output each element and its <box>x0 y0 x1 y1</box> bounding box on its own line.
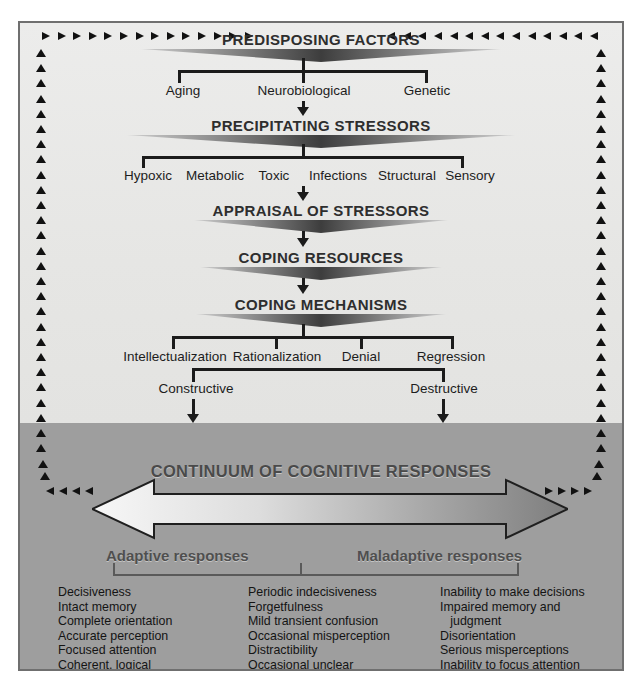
triangle-marker <box>596 155 606 163</box>
column-intermediate: Periodic indecisivenessForgetfulnessMild… <box>248 585 390 671</box>
triangle-marker <box>596 338 606 346</box>
column-item: Occasional misperception <box>248 629 390 644</box>
triangle-marker <box>596 444 606 452</box>
down-arrow-icon <box>297 107 309 116</box>
mechanism-intellectualization: Intellectualization <box>123 349 227 364</box>
triangle-marker <box>36 171 46 179</box>
column-item: Complete orientation <box>58 614 172 629</box>
connector-tick <box>172 336 175 349</box>
column-item: Mild transient confusion <box>248 614 390 629</box>
column-item: Intact memory <box>58 600 172 615</box>
triangle-marker <box>36 429 46 437</box>
connector-tick <box>192 368 195 382</box>
mechanism-rationalization: Rationalization <box>233 349 322 364</box>
triangle-marker <box>596 95 606 103</box>
triangle-marker <box>36 79 46 87</box>
label-maladaptive-responses: Maladaptive responses <box>357 547 522 564</box>
triangle-marker <box>596 64 606 72</box>
stressor-metabolic: Metabolic <box>186 168 244 183</box>
connector-tick <box>425 70 428 83</box>
connector-tick <box>461 156 464 168</box>
column-item: Disorientation <box>440 629 585 644</box>
triangle-marker <box>584 487 592 495</box>
triangle-marker <box>596 429 606 437</box>
diagram-panel: PREDISPOSING FACTORS Aging Neurobiologic… <box>18 21 624 671</box>
label-adaptive-responses: Adaptive responses <box>106 547 249 564</box>
mechanism-denial: Denial <box>342 349 380 364</box>
stage-title-coping-resources: COPING RESOURCES <box>20 249 622 266</box>
triangle-marker <box>596 186 606 194</box>
triangle-marker <box>596 79 606 87</box>
stressor-hypoxic: Hypoxic <box>124 168 172 183</box>
triangle-marker <box>36 95 46 103</box>
connector-tick <box>451 336 454 349</box>
triangle-marker <box>36 155 46 163</box>
column-item: Accurate perception <box>58 629 172 644</box>
connector-tick <box>275 336 278 349</box>
response-bracket <box>113 574 519 576</box>
column-item: Coherent, logical <box>58 658 172 671</box>
banner-coping-mechanisms <box>20 314 622 328</box>
stressor-toxic: Toxic <box>259 168 290 183</box>
column-item: judgment <box>440 614 585 629</box>
banner-predisposing <box>20 49 622 63</box>
connector-tick <box>178 70 181 83</box>
triangle-marker <box>46 487 54 495</box>
down-arrow-icon <box>297 238 309 247</box>
connector-h <box>192 368 445 371</box>
stage-title-precipitating: PRECIPITATING STRESSORS <box>20 117 622 134</box>
triangle-marker <box>59 487 67 495</box>
column-adaptive: DecisivenessIntact memoryComplete orient… <box>58 585 172 671</box>
triangle-marker <box>596 368 606 376</box>
triangle-marker <box>72 487 80 495</box>
column-item: Inability to focus attention <box>440 658 585 671</box>
column-item: Periodic indecisiveness <box>248 585 390 600</box>
down-arrow-icon <box>297 285 309 294</box>
triangle-marker <box>36 186 46 194</box>
stage-appraisal: APPRAISAL OF STRESSORS <box>20 202 622 234</box>
factor-neurobiological: Neurobiological <box>257 83 350 98</box>
diagram-canvas: PREDISPOSING FACTORS Aging Neurobiologic… <box>0 0 642 685</box>
triangle-marker <box>596 353 606 361</box>
stage-predisposing: PREDISPOSING FACTORS <box>20 31 622 63</box>
mechanism-regression: Regression <box>417 349 485 364</box>
outcome-destructive: Destructive <box>410 381 478 396</box>
connector-tick <box>442 368 445 382</box>
response-bracket-tick <box>300 563 302 575</box>
column-item: Impaired memory and <box>440 600 585 615</box>
triangle-marker <box>36 353 46 361</box>
stressor-sensory: Sensory <box>445 168 495 183</box>
triangle-marker <box>36 338 46 346</box>
down-arrow-icon <box>437 414 449 423</box>
triangle-marker <box>36 368 46 376</box>
column-item: Serious misperceptions <box>440 643 585 658</box>
triangle-marker <box>571 487 579 495</box>
triangle-marker <box>596 383 606 391</box>
column-item: Occasional unclear <box>248 658 390 671</box>
triangle-marker <box>596 399 606 407</box>
column-item: Forgetfulness <box>248 600 390 615</box>
response-bracket-tick <box>517 563 519 575</box>
column-item: Inability to make decisions <box>440 585 585 600</box>
connector-tick <box>142 156 145 168</box>
connector-tick <box>360 336 363 349</box>
stage-title-appraisal: APPRAISAL OF STRESSORS <box>20 202 622 219</box>
stage-title-predisposing: PREDISPOSING FACTORS <box>20 31 622 48</box>
stressor-structural: Structural <box>378 168 436 183</box>
stage-precipitating: PRECIPITATING STRESSORS <box>20 117 622 149</box>
column-item: Decisiveness <box>58 585 172 600</box>
triangle-marker <box>596 171 606 179</box>
continuum-double-arrow <box>92 478 568 540</box>
banner-coping-resources <box>20 267 622 281</box>
triangle-marker <box>596 414 606 422</box>
connector-h <box>172 336 454 339</box>
triangle-marker <box>36 399 46 407</box>
banner-appraisal <box>20 220 622 234</box>
connector-h <box>142 156 463 159</box>
triangle-marker <box>36 64 46 72</box>
banner-precipitating <box>20 135 622 149</box>
triangle-marker <box>36 444 46 452</box>
column-item: Focused attention <box>58 643 172 658</box>
connector-tick <box>302 70 305 83</box>
stage-coping-mechanisms: COPING MECHANISMS <box>20 296 622 328</box>
